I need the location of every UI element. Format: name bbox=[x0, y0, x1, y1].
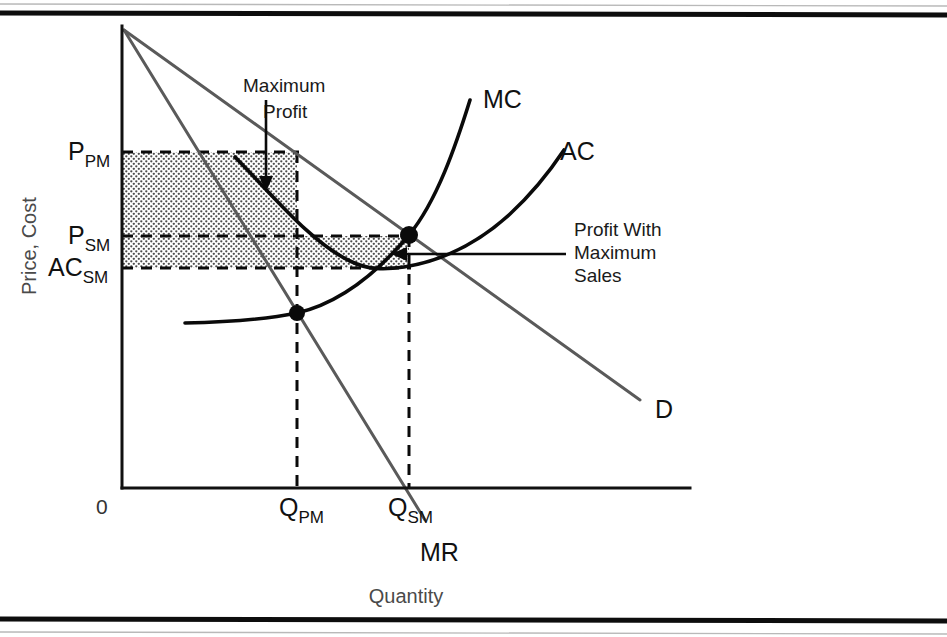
demand-curve-label: D bbox=[655, 395, 673, 423]
revenue-lines bbox=[124, 30, 640, 520]
y-tick-label-p-sm: PSM bbox=[68, 221, 110, 255]
profit-max-point-marker bbox=[289, 305, 305, 321]
y-axis-tick-labels: PPM PSM ACSM bbox=[48, 137, 110, 287]
mc-curve-label: MC bbox=[483, 85, 522, 113]
bottom-rule bbox=[0, 619, 947, 621]
maximum-profit-label-line2: Profit bbox=[263, 101, 308, 122]
top-rule-hairline bbox=[0, 4, 947, 6]
economics-diagram-figure: MC AC D MR PPM PSM ACSM QPM QSM bbox=[0, 0, 947, 637]
ac-curve-label: AC bbox=[560, 137, 595, 165]
top-rule bbox=[0, 13, 947, 15]
profit-max-sales-label-line3: Sales bbox=[574, 265, 622, 286]
sales-max-point-marker bbox=[400, 226, 418, 244]
profit-with-maximum-sales-annotation: Profit With Maximum Sales bbox=[391, 219, 662, 286]
bottom-rule-hairline bbox=[0, 632, 947, 634]
y-axis-title: Price, Cost bbox=[18, 197, 40, 295]
origin-label: 0 bbox=[96, 495, 108, 518]
diagram-canvas: MC AC D MR PPM PSM ACSM QPM QSM bbox=[0, 0, 947, 637]
x-axis-title: Quantity bbox=[369, 585, 443, 607]
profit-max-sales-label-line1: Profit With bbox=[574, 219, 662, 240]
profit-max-sales-label-line2: Maximum bbox=[574, 242, 656, 263]
maximum-profit-label-line1: Maximum bbox=[243, 75, 325, 96]
mr-curve-label: MR bbox=[420, 538, 459, 566]
y-tick-label-ac-sm: ACSM bbox=[48, 253, 108, 287]
x-tick-label-q-pm: QPM bbox=[279, 493, 324, 527]
y-tick-label-p-pm: PPM bbox=[68, 137, 110, 171]
page-frame bbox=[0, 4, 947, 634]
curve-labels: MC AC D MR bbox=[420, 85, 673, 566]
